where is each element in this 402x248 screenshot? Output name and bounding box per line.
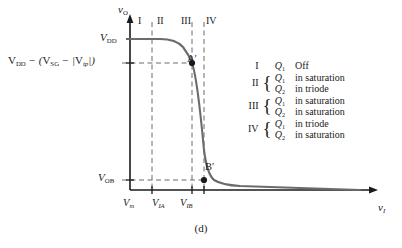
legend-device-2-2: Q2 xyxy=(273,83,293,95)
legend-brace-3: { xyxy=(262,95,273,118)
y-tick-label-vob: VOB xyxy=(98,172,114,183)
legend-region-4: IV xyxy=(246,118,262,141)
region-label-4: IV xyxy=(206,15,217,26)
region-label-3: III xyxy=(181,15,191,26)
legend-device-4-2: Q2 xyxy=(273,129,293,141)
region-label-2: II xyxy=(157,15,164,26)
legend-device-1-1: Q1 xyxy=(273,60,293,72)
x-tick-label-vm: Vm xyxy=(123,198,134,209)
legend-state-3-1: in saturation xyxy=(293,95,347,107)
vtc-figure: vO vI VDD VDD − (VSG − |Vtp|) VOB Vm VIA… xyxy=(0,0,402,248)
figure-caption: (d) xyxy=(0,222,402,234)
legend-state-1-1: Off xyxy=(293,60,347,72)
point-marker-b xyxy=(201,177,207,183)
region-boundary-lines xyxy=(152,22,204,190)
x-tick-label-vib: VIB xyxy=(180,198,193,209)
y-tick-label-vdd-expression: VDD − (VSG − |Vtp|) xyxy=(8,55,95,66)
legend-brace-4: { xyxy=(262,118,273,141)
legend-row: IV { Q1 in triode xyxy=(246,118,347,130)
y-axis-label: vO xyxy=(118,4,128,15)
point-label-a: A′ xyxy=(187,54,197,65)
legend-state-4-1: in triode xyxy=(293,118,347,130)
legend-region-2: II xyxy=(246,72,262,95)
x-axis-label: vI xyxy=(378,202,385,213)
legend-row: I Q1 Off xyxy=(246,60,347,72)
y-tick-label-vdd: VDD xyxy=(100,32,117,43)
x-tick-label-via: VIA xyxy=(152,198,165,209)
legend-state-2-1: in saturation xyxy=(293,72,347,84)
point-label-b: B′ xyxy=(205,162,214,173)
legend-row: II { Q1 in saturation xyxy=(246,72,347,84)
legend-device-3-2: Q2 xyxy=(273,106,293,118)
legend-region-3: III xyxy=(246,95,262,118)
legend-brace-1 xyxy=(262,60,273,72)
operating-region-legend: I Q1 Off II { Q1 in saturation Q2 in tri… xyxy=(246,60,347,141)
legend-state-3-2: in saturation xyxy=(293,106,347,118)
legend-state-4-2: in saturation xyxy=(293,129,347,141)
x-axis-arrowhead xyxy=(369,187,378,194)
legend-state-2-2: in triode xyxy=(293,83,347,95)
legend-region-1: I xyxy=(246,60,262,72)
region-label-1: I xyxy=(138,15,141,26)
legend-row: III { Q1 in saturation xyxy=(246,95,347,107)
legend-brace-2: { xyxy=(262,72,273,95)
legend-device-4-1: Q1 xyxy=(273,118,293,130)
legend-device-2-1: Q1 xyxy=(273,72,293,84)
legend-device-3-1: Q1 xyxy=(273,95,293,107)
